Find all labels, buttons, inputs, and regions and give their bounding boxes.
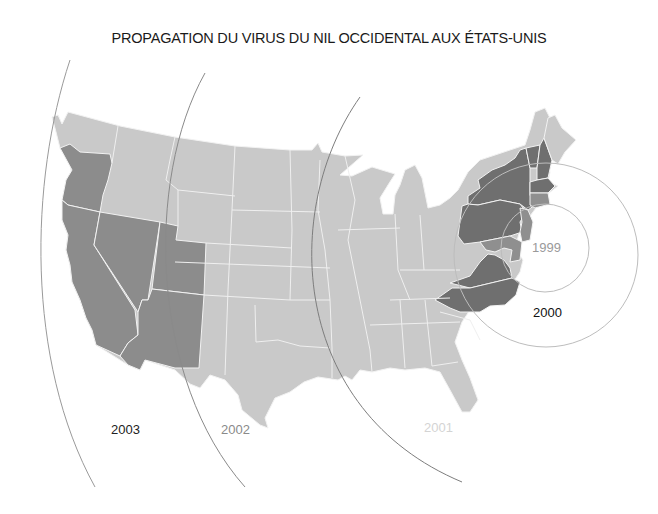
label-2000: 2000 — [533, 305, 562, 320]
label-2003: 2003 — [111, 422, 140, 437]
label-2002: 2002 — [221, 422, 250, 437]
states-layer — [52, 108, 576, 428]
label-1999: 1999 — [532, 240, 561, 255]
label-2001: 2001 — [424, 420, 453, 435]
us-map — [0, 0, 658, 514]
